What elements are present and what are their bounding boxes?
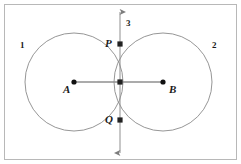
label-circle-two: 2 bbox=[212, 41, 217, 50]
label-center-a: A bbox=[63, 84, 70, 95]
point-q-dot bbox=[117, 117, 122, 122]
label-point-q: Q bbox=[105, 114, 113, 125]
point-midpoint-dot bbox=[117, 79, 122, 84]
geometry-figure: 1 2 3 P Q A B bbox=[0, 0, 241, 164]
label-circle-one: 1 bbox=[20, 41, 25, 50]
label-center-b: B bbox=[169, 84, 176, 95]
point-b-dot bbox=[160, 79, 165, 84]
label-line-three: 3 bbox=[126, 19, 131, 28]
label-point-p: P bbox=[105, 38, 112, 49]
point-p-dot bbox=[117, 41, 122, 46]
point-a-dot bbox=[71, 79, 76, 84]
figure-canvas bbox=[0, 0, 241, 164]
